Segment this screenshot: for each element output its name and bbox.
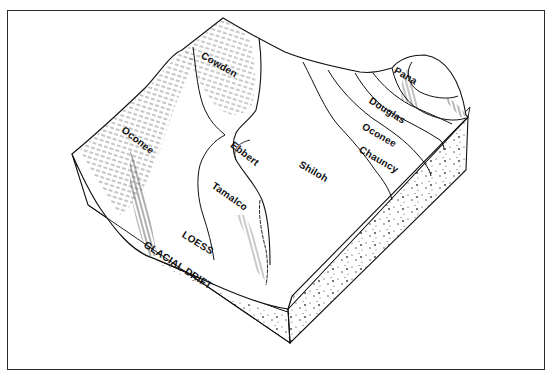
block-diagram	[0, 0, 559, 383]
top-surface	[72, 18, 468, 309]
